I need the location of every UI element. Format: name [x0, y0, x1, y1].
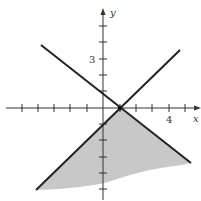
y-axis-label: y	[109, 7, 116, 18]
x-axis-label: x	[193, 113, 199, 124]
x-tick-label-4: 4	[166, 114, 172, 125]
y-tick-label-3: 3	[89, 54, 95, 65]
y-axis-arrow-icon	[101, 8, 106, 15]
inequality-graph: y x 3 4	[0, 0, 201, 201]
x-axis-arrow-icon	[194, 106, 201, 111]
intersection-point	[118, 106, 122, 110]
